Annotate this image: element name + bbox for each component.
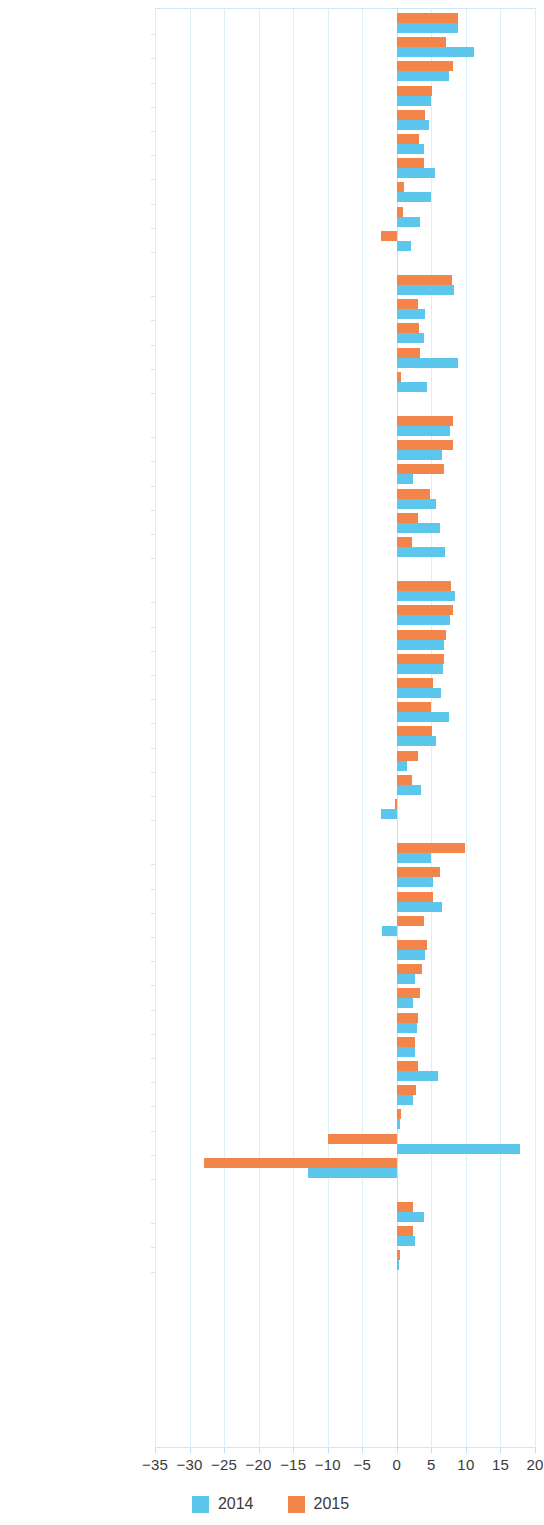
legend-label: 2015 — [314, 1495, 350, 1513]
legend-item[interactable]: 2015 — [288, 1495, 350, 1513]
x-tick-label: −10 — [315, 1456, 341, 1473]
x-tick-label: 20 — [526, 1456, 543, 1473]
chart-legend: 20142015 — [0, 1495, 541, 1513]
x-tick-label: −20 — [246, 1456, 272, 1473]
x-tick-label: −15 — [280, 1456, 306, 1473]
x-tick-label: −5 — [354, 1456, 372, 1473]
legend-swatch-icon — [192, 1496, 209, 1513]
x-tick-label: 0 — [393, 1456, 402, 1473]
x-tick-label: −35 — [142, 1456, 168, 1473]
x-tick-label: −25 — [211, 1456, 237, 1473]
legend-swatch-icon — [288, 1496, 305, 1513]
x-tick-label: −30 — [177, 1456, 203, 1473]
x-tick-label: 5 — [427, 1456, 436, 1473]
legend-item[interactable]: 2014 — [192, 1495, 254, 1513]
x-tick-label: 10 — [457, 1456, 474, 1473]
x-tick-label: 15 — [492, 1456, 509, 1473]
legend-label: 2014 — [218, 1495, 254, 1513]
